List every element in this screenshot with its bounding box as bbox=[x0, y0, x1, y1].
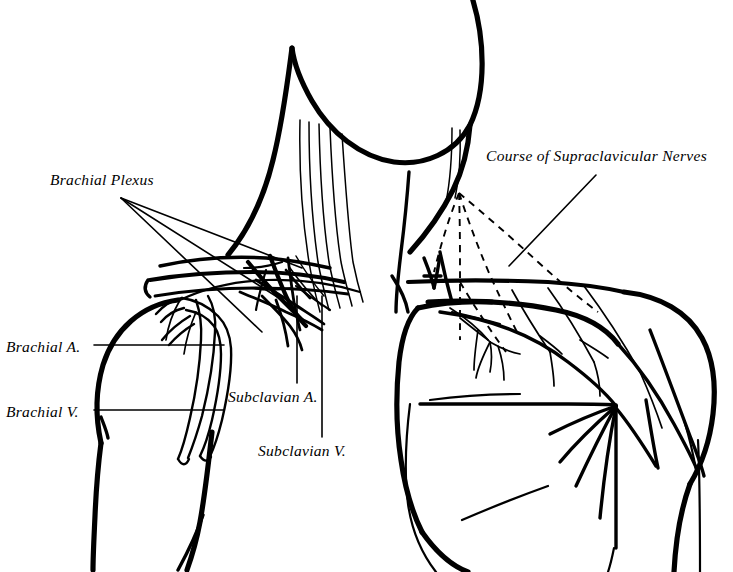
scm-stripe-5 bbox=[342, 134, 363, 302]
nerve-intermediate-branch-b bbox=[550, 352, 554, 386]
nerve-intermediate-trunk bbox=[512, 290, 550, 352]
label-supraclavicular-nerves: Course of Supraclavicular Nerves bbox=[486, 148, 707, 164]
nerve-lateral-branch-a bbox=[580, 340, 608, 358]
chest-side-contour bbox=[608, 548, 614, 572]
pectoral-axillary-fold bbox=[440, 312, 616, 406]
label-subclavian-vein: Subclavian V. bbox=[258, 443, 346, 459]
deltoid-anterior-edge bbox=[650, 330, 704, 476]
nerve-twig-2 bbox=[498, 346, 504, 380]
leader-supraclavicular-nerves bbox=[509, 175, 596, 266]
nerve-medial-branch-a bbox=[490, 342, 492, 372]
supraclavicular-dashed-course bbox=[434, 193, 598, 352]
plexus-trunk-3 bbox=[288, 258, 300, 330]
pectoral-fibre-1 bbox=[550, 406, 616, 434]
pectoral-lower-border bbox=[420, 404, 616, 405]
right-upper-arm-contour bbox=[674, 484, 690, 572]
label-subclavian-artery: Subclavian A. bbox=[228, 389, 318, 405]
anatomy-drawing bbox=[0, 0, 733, 572]
deltoid-contour bbox=[97, 300, 178, 443]
vein-wall-medial bbox=[178, 300, 201, 459]
deltopectoral-groove bbox=[618, 344, 698, 472]
chest-lower-contour bbox=[422, 532, 468, 572]
rib-line-3 bbox=[462, 486, 548, 520]
artery-wall-lateral bbox=[182, 298, 231, 456]
clavicle-cut-end bbox=[145, 280, 150, 297]
label-brachial-artery: Brachial A. bbox=[6, 339, 80, 355]
dashed-nerve-lateral bbox=[459, 193, 598, 312]
sternum-left-border bbox=[397, 308, 422, 532]
nerve-twig-1 bbox=[476, 342, 490, 378]
right-deltoid-contour bbox=[624, 292, 714, 484]
rib-line-2 bbox=[430, 394, 520, 400]
dissected-shoulder-group bbox=[93, 256, 360, 570]
subclavian-artery-vessel bbox=[156, 298, 231, 461]
nerve-lateral-branch-b bbox=[594, 362, 600, 396]
vein-cut-end bbox=[178, 459, 189, 464]
right-clavicle bbox=[408, 281, 624, 293]
brachial-plexus-trunks bbox=[240, 256, 330, 350]
label-brachial-vein: Brachial V. bbox=[6, 404, 79, 420]
sternal-notch-mark-1 bbox=[424, 258, 434, 288]
intact-shoulder-group bbox=[406, 193, 714, 572]
dashed-nerve-intermediate bbox=[459, 193, 518, 334]
neck-left-contour bbox=[228, 48, 292, 255]
upper-arm-lateral-contour bbox=[93, 443, 101, 570]
nerve-medial-branch-c bbox=[474, 330, 478, 370]
anatomical-figure: Brachial Plexus Brachial A. Brachial V. … bbox=[0, 0, 733, 572]
jaw-contour bbox=[292, 0, 482, 163]
label-brachial-plexus: Brachial Plexus bbox=[50, 172, 154, 188]
